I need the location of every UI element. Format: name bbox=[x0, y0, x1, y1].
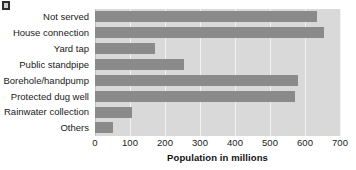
bar-row bbox=[95, 120, 340, 136]
bar bbox=[95, 122, 113, 133]
category-label: Protected dug well bbox=[0, 88, 92, 104]
category-label: Rainwater collection bbox=[0, 104, 92, 120]
x-tick-label: 400 bbox=[227, 137, 243, 149]
bar-row bbox=[95, 9, 340, 25]
x-tick-label: 0 bbox=[92, 137, 97, 149]
bar-row bbox=[95, 88, 340, 104]
bar-row bbox=[95, 104, 340, 120]
category-label: Others bbox=[0, 120, 92, 136]
x-tick-label: 700 bbox=[332, 137, 348, 149]
bar bbox=[95, 75, 298, 86]
x-tick-label: 500 bbox=[262, 137, 278, 149]
bar-row bbox=[95, 41, 340, 57]
bar bbox=[95, 27, 324, 38]
x-axis-title: Population in millions bbox=[95, 152, 340, 163]
category-axis-labels: Not servedHouse connectionYard tapPublic… bbox=[0, 9, 92, 136]
bar-row bbox=[95, 57, 340, 73]
x-tick-label: 600 bbox=[297, 137, 313, 149]
bars-layer bbox=[95, 9, 340, 136]
bar bbox=[95, 11, 317, 22]
plot-area bbox=[95, 9, 340, 136]
x-axis-tick-labels: 0100200300400500600700 bbox=[95, 137, 340, 149]
bar-chart-figure: Not servedHouse connectionYard tapPublic… bbox=[0, 0, 356, 170]
x-tick-label: 200 bbox=[157, 137, 173, 149]
bar bbox=[95, 43, 155, 54]
category-label: Borehole/handpump bbox=[0, 73, 92, 89]
category-label: Public standpipe bbox=[0, 57, 92, 73]
category-label: Not served bbox=[0, 9, 92, 25]
category-label: Yard tap bbox=[0, 41, 92, 57]
bar-row bbox=[95, 73, 340, 89]
x-tick-label: 300 bbox=[192, 137, 208, 149]
gridline bbox=[340, 9, 341, 136]
bar bbox=[95, 91, 295, 102]
bar bbox=[95, 107, 132, 118]
bar bbox=[95, 59, 184, 70]
x-tick-label: 100 bbox=[122, 137, 138, 149]
category-label: House connection bbox=[0, 25, 92, 41]
bar-row bbox=[95, 25, 340, 41]
